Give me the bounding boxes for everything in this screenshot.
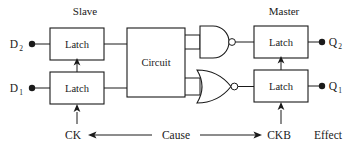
latch-slave-top-label: Latch (65, 39, 90, 50)
output-label-q1-base: Q (329, 80, 338, 92)
heading-slave: Slave (73, 5, 98, 17)
output-label-q1-subscript: 1 (338, 86, 342, 95)
latch-master-bottom-label: Latch (269, 81, 294, 92)
nand-gate-inversion-bubble (229, 39, 236, 46)
input-label-d2-base: D (10, 38, 18, 50)
arrowhead-ck-to-slave-latch (74, 104, 81, 112)
arrowhead-ckb-to-master-latch (278, 102, 285, 110)
nor-gate-body (197, 70, 231, 103)
nand-gate-body (200, 26, 229, 58)
clock-label-ck: CK (65, 129, 82, 141)
input-label-d2-subscript: 2 (19, 44, 23, 53)
output-terminal-q2 (319, 39, 325, 45)
input-label-d1-base: D (10, 82, 18, 94)
heading-master: Master (269, 5, 300, 17)
clock-label-ckb: CKB (267, 129, 291, 141)
input-label-d1-subscript: 1 (19, 88, 23, 97)
circuit-block-label: Circuit (141, 57, 170, 68)
output-label-q2-subscript: 2 (338, 42, 342, 51)
latch-master-top-label: Latch (269, 37, 294, 48)
circuit-diagram-canvas: Slave Master D 2 D 1 Latch Latch Circuit (0, 0, 352, 149)
latch-slave-bottom-label: Latch (65, 83, 90, 94)
diagram-svg: Slave Master D 2 D 1 Latch Latch Circuit (0, 0, 352, 149)
output-label-q2-base: Q (329, 36, 338, 48)
nor-gate-inversion-bubble (231, 83, 238, 90)
output-terminal-q1 (319, 83, 325, 89)
annotation-effect: Effect (314, 129, 343, 141)
annotation-cause: Cause (162, 129, 190, 141)
